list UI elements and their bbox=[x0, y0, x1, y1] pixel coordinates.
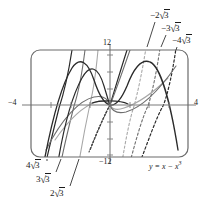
curve-label-3sqrt3: 3√3 bbox=[36, 175, 51, 185]
equation-base: y = x − x bbox=[149, 162, 178, 171]
curve-4sqrt3 bbox=[46, 50, 72, 162]
curve-label-neg3sqrt3-coeff: −3 bbox=[161, 23, 171, 33]
equation-label: y = x − x3 bbox=[149, 160, 181, 171]
curve-label-4sqrt3: 4√3 bbox=[26, 161, 41, 171]
math-figure: −2√3 −3√3 −4√3 4√3 3√3 2√3 −4 4 12 −12 y… bbox=[0, 0, 211, 208]
curve-label-neg4sqrt3-coeff: −4 bbox=[172, 35, 182, 45]
leader-lines-lower bbox=[46, 159, 79, 186]
curve-label-neg2sqrt3-coeff: −2 bbox=[150, 10, 160, 20]
axis-label-x-min: −4 bbox=[8, 99, 17, 107]
axis-label-x-max: 4 bbox=[194, 99, 198, 107]
curve-label-4sqrt3-radicand: 3 bbox=[35, 159, 41, 170]
curve-steep-pair-a bbox=[110, 50, 127, 105]
curve-steep-pair-b bbox=[110, 50, 130, 105]
curve-label-neg4sqrt3-radicand: 3 bbox=[186, 34, 192, 45]
leader-neg2sqrt3 bbox=[147, 22, 155, 47]
curve-label-2sqrt3-radicand: 3 bbox=[59, 187, 65, 198]
curve-label-neg3sqrt3-radicand: 3 bbox=[175, 22, 181, 33]
equation-exponent: 3 bbox=[178, 160, 181, 166]
axis-label-y-max: 12 bbox=[103, 39, 111, 47]
curve-label-2sqrt3: 2√3 bbox=[50, 189, 65, 199]
axis-label-y-min: −12 bbox=[99, 158, 112, 166]
curve-label-neg4sqrt3: −4√3 bbox=[172, 36, 192, 46]
curve-label-neg2sqrt3: −2√3 bbox=[150, 11, 170, 21]
curve-label-3sqrt3-radicand: 3 bbox=[45, 173, 51, 184]
curve-label-neg3sqrt3: −3√3 bbox=[161, 24, 181, 34]
curve-label-neg2sqrt3-radicand: 3 bbox=[164, 9, 170, 20]
leader-3sqrt3 bbox=[56, 159, 61, 172]
leader-neg3sqrt3 bbox=[161, 35, 166, 47]
leader-2sqrt3 bbox=[70, 159, 79, 186]
curve-cubic-mid bbox=[46, 66, 176, 150]
